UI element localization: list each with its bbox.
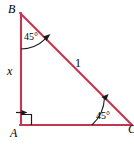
side-label-x: x [7, 65, 12, 77]
angle-label-b: 45° [24, 32, 38, 42]
vertex-label-c: C [128, 123, 134, 135]
geometry-figure: B A C x 1 45° 45° [0, 0, 134, 144]
triangle-drawing [0, 0, 134, 144]
side-label-hypotenuse-length: 1 [75, 57, 81, 69]
right-angle-mark-A [16, 110, 32, 125]
vertex-label-a: A [10, 127, 17, 139]
angle-label-c: 45° [96, 111, 110, 121]
right-angle-square-A [21, 115, 32, 126]
vertex-label-b: B [8, 3, 15, 15]
